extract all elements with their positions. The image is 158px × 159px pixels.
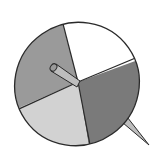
spinner-svg — [0, 0, 158, 159]
spinner-figure — [0, 0, 158, 159]
